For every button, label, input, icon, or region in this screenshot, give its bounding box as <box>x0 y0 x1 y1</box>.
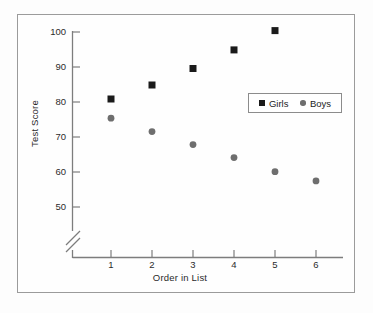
circle-marker-icon <box>300 100 306 106</box>
y-tick-label: 90 <box>38 61 66 72</box>
y-tick-label: 60 <box>38 166 66 177</box>
data-point-boys <box>272 168 279 175</box>
data-point-girls <box>190 65 197 72</box>
chart-figure: 100 90 80 70 60 50 1 2 3 4 5 6 Test Scor… <box>0 0 373 313</box>
data-point-boys <box>190 141 197 148</box>
square-marker-icon <box>259 100 265 106</box>
y-tick-label: 70 <box>38 131 66 142</box>
legend-label-boys: Boys <box>310 98 331 109</box>
axis-break-icon <box>66 231 80 252</box>
legend-label-girls: Girls <box>269 98 289 109</box>
data-point-girls <box>108 96 115 103</box>
legend-entry-boys: Boys <box>300 98 331 109</box>
series-girls-points <box>108 27 279 102</box>
data-point-boys <box>313 178 320 185</box>
x-tick-label: 1 <box>103 259 119 270</box>
data-point-boys <box>149 128 156 135</box>
data-point-boys <box>231 154 238 161</box>
x-tick-label: 3 <box>185 259 201 270</box>
chart-legend: Girls Boys <box>248 93 342 113</box>
data-point-boys <box>108 115 115 122</box>
data-point-girls <box>231 46 238 53</box>
data-point-girls <box>272 27 279 34</box>
data-point-girls <box>149 82 156 89</box>
legend-entry-girls: Girls <box>259 98 289 109</box>
x-axis-ticks <box>111 250 316 258</box>
y-axis-ticks <box>73 32 81 207</box>
x-tick-label: 2 <box>144 259 160 270</box>
x-tick-label: 4 <box>226 259 242 270</box>
y-tick-label: 100 <box>38 26 66 37</box>
series-boys-points <box>108 115 320 185</box>
x-tick-label: 6 <box>308 259 324 270</box>
y-tick-label: 80 <box>38 96 66 107</box>
y-axis-title: Test Score <box>29 84 40 164</box>
x-axis-title: Order in List <box>120 272 240 283</box>
x-tick-label: 5 <box>267 259 283 270</box>
y-tick-label: 50 <box>38 201 66 212</box>
